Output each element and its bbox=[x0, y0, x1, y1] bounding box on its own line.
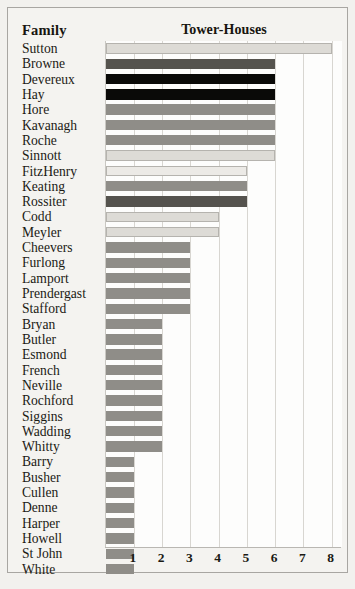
category-label: Whitty bbox=[22, 439, 102, 454]
x-tick-label: 7 bbox=[299, 550, 306, 566]
x-tick-label: 2 bbox=[158, 550, 165, 566]
category-label: Denne bbox=[22, 500, 102, 515]
category-label: Cheevers bbox=[22, 240, 102, 255]
bar-row bbox=[106, 148, 342, 163]
bar bbox=[106, 120, 276, 130]
bar-row bbox=[106, 225, 342, 240]
bar bbox=[106, 89, 276, 99]
x-tick-label: 5 bbox=[242, 550, 249, 566]
chart-inner: Family Tower-Houses SuttonBrowneDevereux… bbox=[8, 8, 347, 572]
bar-row bbox=[106, 87, 342, 102]
x-tick-label: 3 bbox=[186, 550, 193, 566]
category-label: Butler bbox=[22, 332, 102, 347]
bar-row bbox=[106, 516, 342, 531]
category-label: Meyler bbox=[22, 225, 102, 240]
bar bbox=[106, 441, 163, 451]
bar bbox=[106, 411, 163, 421]
bar-row bbox=[106, 393, 342, 408]
category-label: Devereux bbox=[22, 72, 102, 87]
bar bbox=[106, 487, 134, 497]
bar-row bbox=[106, 209, 342, 224]
bar-row bbox=[106, 118, 342, 133]
bar-row bbox=[106, 271, 342, 286]
bar bbox=[106, 227, 219, 237]
bar bbox=[106, 181, 247, 191]
x-tick-label: 1 bbox=[129, 550, 136, 566]
bar-row bbox=[106, 409, 342, 424]
bar-row bbox=[106, 485, 342, 500]
bar-row bbox=[106, 133, 342, 148]
category-label-column: SuttonBrowneDevereuxHayHoreKavanaghRoche… bbox=[22, 41, 102, 577]
bar bbox=[106, 242, 191, 252]
category-label: St John bbox=[22, 546, 102, 561]
category-label: Siggins bbox=[22, 409, 102, 424]
bar bbox=[106, 59, 276, 69]
category-label: White bbox=[22, 562, 102, 577]
category-label: Sutton bbox=[22, 41, 102, 56]
bar-series bbox=[106, 41, 342, 547]
bar-row bbox=[106, 439, 342, 454]
bar bbox=[106, 349, 163, 359]
bar-row bbox=[106, 56, 342, 71]
category-label: Rochford bbox=[22, 393, 102, 408]
bar bbox=[106, 196, 247, 206]
bar-row bbox=[106, 317, 342, 332]
bar-row bbox=[106, 102, 342, 117]
bar-row bbox=[106, 454, 342, 469]
family-column-header: Family bbox=[22, 22, 67, 39]
bar bbox=[106, 457, 134, 467]
bar-row bbox=[106, 470, 342, 485]
category-label: Roche bbox=[22, 133, 102, 148]
category-label: Sinnott bbox=[22, 148, 102, 163]
x-tick-label: 6 bbox=[271, 550, 278, 566]
x-tick-label: 4 bbox=[214, 550, 221, 566]
category-label: Neville bbox=[22, 378, 102, 393]
category-label: Harper bbox=[22, 516, 102, 531]
bar-row bbox=[106, 500, 342, 515]
bar bbox=[106, 74, 276, 84]
bar-row bbox=[106, 72, 342, 87]
x-tick-label: 8 bbox=[327, 550, 334, 566]
bar bbox=[106, 258, 191, 268]
x-axis-tick-labels: 12345678 bbox=[105, 548, 341, 570]
bar bbox=[106, 166, 247, 176]
category-label: Prendergast bbox=[22, 286, 102, 301]
category-label: Browne bbox=[22, 56, 102, 71]
category-label: Cullen bbox=[22, 485, 102, 500]
bar-row bbox=[106, 531, 342, 546]
bar bbox=[106, 380, 163, 390]
bar-row bbox=[106, 240, 342, 255]
bar bbox=[106, 426, 163, 436]
category-label: Bryan bbox=[22, 317, 102, 332]
category-label: Esmond bbox=[22, 347, 102, 362]
bar-row bbox=[106, 194, 342, 209]
bar bbox=[106, 43, 332, 53]
plot-area bbox=[105, 41, 342, 547]
category-label: Howell bbox=[22, 531, 102, 546]
bar-row bbox=[106, 286, 342, 301]
bar bbox=[106, 135, 276, 145]
bar bbox=[106, 472, 134, 482]
bar-row bbox=[106, 378, 342, 393]
bar bbox=[106, 319, 163, 329]
bar bbox=[106, 288, 191, 298]
bar bbox=[106, 104, 276, 114]
bar bbox=[106, 150, 276, 160]
bar bbox=[106, 212, 219, 222]
bar bbox=[106, 533, 134, 543]
category-label: Stafford bbox=[22, 301, 102, 316]
bar bbox=[106, 334, 163, 344]
category-label: Barry bbox=[22, 454, 102, 469]
chart-frame: Family Tower-Houses SuttonBrowneDevereux… bbox=[7, 7, 348, 573]
category-label: FitzHenry bbox=[22, 164, 102, 179]
bar bbox=[106, 365, 163, 375]
bar-row bbox=[106, 164, 342, 179]
bar bbox=[106, 304, 191, 314]
category-label: Codd bbox=[22, 209, 102, 224]
bar-row bbox=[106, 179, 342, 194]
chart-figure: Family Tower-Houses SuttonBrowneDevereux… bbox=[0, 0, 355, 589]
category-label: Keating bbox=[22, 179, 102, 194]
category-label: Lamport bbox=[22, 271, 102, 286]
category-label: Hore bbox=[22, 102, 102, 117]
bar-row bbox=[106, 363, 342, 378]
